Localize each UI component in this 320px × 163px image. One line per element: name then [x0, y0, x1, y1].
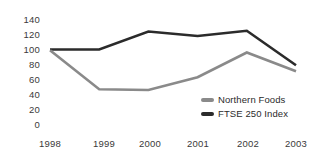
legend-item-ftse-250-index: FTSE 250 Index [201, 107, 288, 121]
x-axis-tick-2002: 2002 [228, 139, 268, 149]
legend-label-ftse-250-index: FTSE 250 Index [218, 109, 288, 119]
x-axis-tick-2001: 2001 [178, 139, 218, 149]
line-chart: 140 120 100 80 60 40 20 0 1998 1999 2000… [0, 0, 320, 163]
x-axis-tick-2000: 2000 [130, 139, 170, 149]
x-axis-tick-1998: 1998 [30, 139, 70, 149]
chart-screenshot: 140 120 100 80 60 40 20 0 1998 1999 2000… [0, 0, 320, 163]
x-axis-tick-1999: 1999 [84, 139, 124, 149]
chart-legend: Northern Foods FTSE 250 Index [201, 93, 288, 121]
legend-item-northern-foods: Northern Foods [201, 93, 288, 107]
series-line-northern-foods [50, 50, 296, 90]
legend-label-northern-foods: Northern Foods [218, 95, 285, 105]
legend-swatch-icon-ftse-250-index [201, 112, 214, 116]
legend-swatch-icon-northern-foods [201, 98, 214, 102]
series-line-ftse-250-index [50, 31, 296, 66]
x-axis-tick-2003: 2003 [276, 139, 316, 149]
